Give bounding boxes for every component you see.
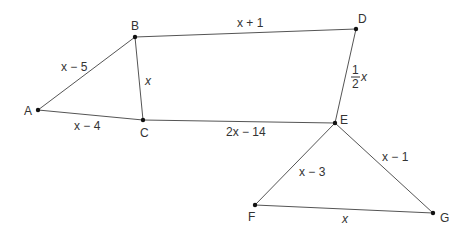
label-segment-ef: x − 3: [299, 165, 326, 179]
segment-ef: [255, 123, 335, 205]
geometry-diagram: A B C D E F G x − 5 x x − 4 x + 1 1 2 x …: [0, 0, 466, 235]
segment-eg: [335, 123, 433, 213]
label-segment-de-variable: x: [360, 70, 368, 84]
point-a: [36, 108, 40, 112]
label-segment-bd: x + 1: [237, 16, 264, 30]
point-e: [333, 121, 337, 125]
point-c: [141, 118, 145, 122]
label-point-c: C: [140, 126, 149, 140]
segment-ce: [143, 120, 335, 123]
point-d: [354, 27, 358, 31]
point-b: [133, 35, 137, 39]
point-f: [253, 203, 257, 207]
label-segment-de-numerator: 1: [352, 63, 359, 77]
label-segment-de-denominator: 2: [352, 77, 359, 91]
segment-bd: [135, 29, 356, 37]
label-segment-ab: x − 5: [61, 60, 88, 74]
label-point-e: E: [340, 113, 348, 127]
label-segment-bc: x: [144, 74, 152, 88]
label-point-d: D: [358, 12, 367, 26]
label-point-f: F: [248, 210, 255, 224]
label-point-g: G: [440, 211, 449, 225]
label-segment-ac: x − 4: [74, 119, 101, 133]
label-segment-eg: x − 1: [382, 150, 409, 164]
point-g: [431, 211, 435, 215]
label-point-a: A: [24, 104, 32, 118]
label-segment-ce: 2x − 14: [226, 125, 266, 139]
label-point-b: B: [131, 19, 139, 33]
segment-bc: [135, 37, 143, 120]
label-segment-fg: x: [341, 212, 349, 226]
